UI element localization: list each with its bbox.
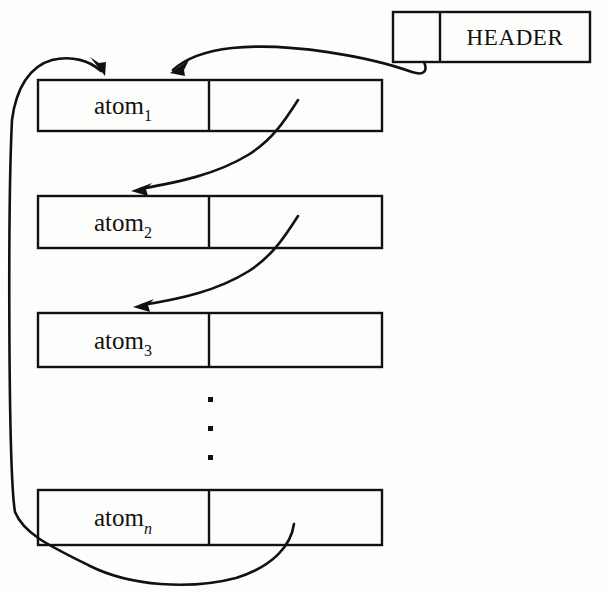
- link-node-n-to-node-1-curve: [9, 58, 294, 585]
- link-node-1-to-node-2: [131, 100, 298, 196]
- node-n-subscript: n: [144, 520, 152, 537]
- node-2: atom2: [38, 196, 382, 248]
- link-node-2-to-node-3-arrowhead: [133, 299, 154, 312]
- ellipsis-dots: [208, 397, 213, 460]
- link-node-2-to-node-3-curve: [142, 216, 298, 305]
- node-n: atomn: [38, 490, 382, 545]
- diagram-canvas: HEADER atom1 atom2 atom3: [0, 0, 607, 593]
- ellipsis-dot-3: [208, 455, 213, 460]
- linked-list-diagram: HEADER atom1 atom2 atom3: [0, 0, 607, 593]
- node-2-label: atom2: [94, 209, 152, 241]
- header-pointer-cell: [393, 12, 440, 62]
- link-node-2-to-node-3: [133, 216, 298, 312]
- node-n-label: atomn: [94, 504, 152, 537]
- link-header-to-node-1-curve: [173, 47, 426, 74]
- link-header-to-node-1-arrowhead: [170, 60, 189, 76]
- ellipsis-dot-2: [208, 426, 213, 431]
- node-3-label: atom3: [94, 327, 152, 359]
- node-2-atom-text: atom: [94, 209, 145, 236]
- node-3: atom3: [38, 313, 382, 367]
- node-3-subscript: 3: [144, 342, 152, 359]
- node-3-pointer-cell: [209, 313, 382, 367]
- node-1-subscript: 1: [144, 107, 152, 124]
- node-3-atom-text: atom: [94, 327, 145, 354]
- node-1: atom1: [38, 80, 382, 131]
- link-node-n-to-node-1: [9, 57, 294, 585]
- link-node-n-to-node-1-arrowhead: [90, 57, 106, 76]
- link-header-to-node-1: [170, 47, 426, 76]
- node-2-subscript: 2: [144, 224, 152, 241]
- node-1-label: atom1: [94, 92, 152, 124]
- ellipsis-dot-1: [208, 397, 213, 402]
- link-node-1-to-node-2-curve: [140, 100, 298, 189]
- node-1-atom-text: atom: [94, 92, 145, 119]
- node-n-atom-text: atom: [94, 504, 145, 531]
- header-node: HEADER: [393, 12, 590, 62]
- link-node-1-to-node-2-arrowhead: [131, 183, 152, 196]
- node-n-pointer-cell: [209, 490, 382, 545]
- header-label: HEADER: [467, 25, 564, 50]
